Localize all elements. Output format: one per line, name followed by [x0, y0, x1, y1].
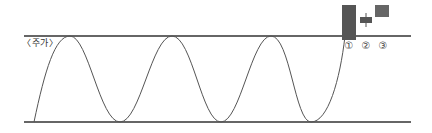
- price-wave: [34, 36, 345, 122]
- candle-2-body: [360, 17, 372, 23]
- candle-3-label: ③: [376, 40, 390, 51]
- price-band-diagram: [0, 0, 432, 133]
- price-axis-label: 〈주가〉: [22, 36, 58, 49]
- candle-1-body: [342, 5, 356, 40]
- candle-2-label: ②: [359, 40, 373, 51]
- candle-1-label: ①: [342, 40, 356, 51]
- candle-3-body: [375, 5, 389, 17]
